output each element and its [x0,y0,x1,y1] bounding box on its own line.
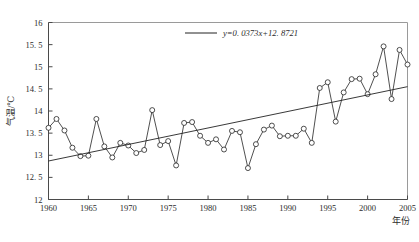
data-point-marker [102,144,107,149]
data-point-marker [309,140,314,145]
y-tick-label: 14. 5 [26,84,43,94]
y-tick-label: 14 [34,106,43,116]
data-point-marker [373,72,378,77]
data-point-marker [269,123,274,128]
y-tick-label: 12. 5 [26,172,43,182]
data-point-marker [150,108,155,113]
climate-line-chart: 1212. 51313. 51414. 51515. 5161960196519… [0,0,419,242]
data-point-marker [389,97,394,102]
data-point-marker [182,120,187,125]
data-point-marker [349,77,354,82]
data-point-marker [317,85,322,90]
data-point-marker [333,119,338,124]
y-tick-label: 16 [34,18,43,28]
data-point-marker [277,134,282,139]
data-point-marker [253,142,258,147]
data-point-marker [158,143,163,148]
x-tick-label: 1965 [80,203,97,213]
trendline [49,87,408,161]
data-point-marker [261,127,266,132]
data-point-marker [222,147,227,152]
data-point-marker [381,44,386,49]
x-tick-label: 1985 [239,203,256,213]
data-point-marker [54,116,59,121]
data-point-marker [190,120,195,125]
data-point-marker [46,125,51,130]
y-tick-label: 15. 5 [26,40,43,50]
x-tick-label: 1975 [160,203,177,213]
data-point-marker [285,133,290,138]
data-point-marker [134,151,139,156]
data-point-marker [237,130,242,135]
data-point-marker [142,147,147,152]
x-axis-title: 年份 [392,215,410,226]
data-point-marker [397,47,402,52]
data-point-marker [301,126,306,131]
data-point-marker [206,140,211,145]
x-tick-label: 1970 [120,203,137,213]
data-point-marker [70,145,75,150]
data-point-marker [341,90,346,95]
x-tick-label: 1980 [200,203,217,213]
data-point-marker [325,80,330,85]
data-point-marker [293,133,298,138]
y-axis-title: 气温/℃ [5,96,16,127]
data-point-marker [214,137,219,142]
y-tick-label: 13. 5 [26,128,43,138]
data-point-marker [357,76,362,81]
x-tick-label: 2000 [359,203,376,213]
y-tick-label: 13 [34,150,43,160]
data-point-marker [118,140,123,145]
data-point-marker [86,153,91,158]
data-point-marker [198,133,203,138]
data-point-marker [229,128,234,133]
data-point-marker [245,166,250,171]
x-tick-label: 1995 [319,203,336,213]
data-point-marker [62,128,67,133]
x-tick-label: 1960 [40,203,57,213]
y-tick-label: 15 [34,62,43,72]
x-tick-label: 2005 [399,203,416,213]
chart-canvas: 1212. 51313. 51414. 51515. 5161960196519… [0,0,419,242]
data-point-marker [110,155,115,160]
data-point-marker [405,62,410,67]
data-point-marker [174,163,179,168]
x-tick-label: 1990 [279,203,296,213]
legend-label: y=0. 0373x+12. 8721 [222,28,298,38]
data-point-marker [94,116,99,121]
data-point-marker [166,139,171,144]
